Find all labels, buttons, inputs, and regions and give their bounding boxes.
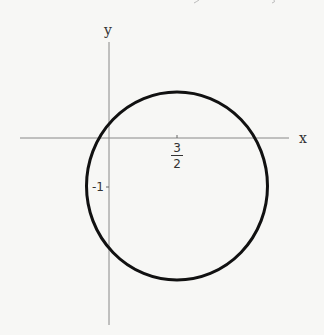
cropped-paren-right-mark xyxy=(272,0,275,3)
cropped-paren-left-mark xyxy=(194,0,199,3)
circle-plot: y x 3 2 -1 xyxy=(0,0,324,335)
plot-canvas: y x 3 2 -1 xyxy=(0,0,324,335)
circle-curve xyxy=(87,92,268,280)
y-axis-label: y xyxy=(103,22,112,38)
x-tick-denominator: 2 xyxy=(173,157,181,171)
x-axis-label: x xyxy=(299,130,307,146)
y-tick-label: -1 xyxy=(92,180,104,194)
x-tick-numerator: 3 xyxy=(173,141,181,155)
